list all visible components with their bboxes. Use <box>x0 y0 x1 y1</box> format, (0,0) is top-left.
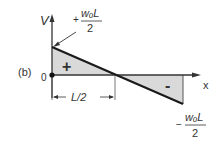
top-value-denominator: 2 <box>87 22 93 34</box>
panel-label: (b) <box>18 66 31 78</box>
positive-region-label: + <box>62 58 71 75</box>
shear-diagram: V (b) 0 x + wₒL 2 + - L/2 − wₒL 2 <box>0 0 221 145</box>
origin-point <box>49 72 54 77</box>
v-axis-arrow-icon <box>50 14 55 22</box>
leader-arrow-icon <box>53 42 60 48</box>
x-axis-label: x <box>203 79 209 91</box>
dimension-label: L/2 <box>71 91 86 103</box>
bottom-value-sign: − <box>176 119 182 130</box>
top-value-sign: + <box>73 14 79 25</box>
y-axis-label: V <box>40 13 50 28</box>
top-value-numerator: wₒL <box>81 7 99 19</box>
x-axis-arrow-icon <box>192 73 201 78</box>
origin-label: 0 <box>41 72 47 83</box>
negative-region-label: - <box>165 77 170 94</box>
bottom-value-numerator: wₒL <box>185 111 203 123</box>
bottom-value-denominator: 2 <box>192 127 198 139</box>
